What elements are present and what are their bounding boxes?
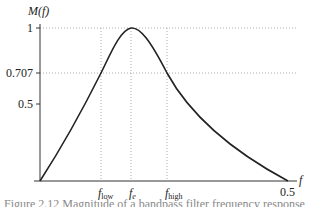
y-axis-label: M(f)	[27, 4, 49, 18]
y-tick-label-1: 1	[27, 21, 33, 35]
response-curve	[40, 28, 288, 181]
x-axis-label: f	[299, 173, 304, 187]
figure-caption: Figure 2.12 Magnitude of a bandpass filt…	[4, 197, 314, 207]
gridlines	[40, 28, 296, 181]
y-tick-label-05: 0.5	[18, 97, 33, 111]
chart: M(f) 1 0.707 0.5 flow fe fhigh 0.5 f	[0, 0, 315, 207]
y-tick-label-0707: 0.707	[6, 66, 33, 80]
axes	[34, 24, 297, 181]
